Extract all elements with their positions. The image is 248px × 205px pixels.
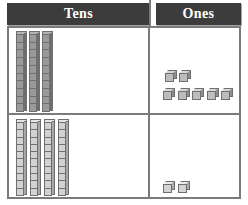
column-header-tens-label: Tens	[64, 6, 93, 22]
tens-rod	[29, 31, 40, 113]
ones-cube-front-face	[163, 91, 172, 100]
tens-rod-unit-segment	[45, 145, 51, 152]
column-header-ones-label: Ones	[183, 6, 215, 22]
tens-rod-unit-segment	[30, 89, 36, 97]
tens-rod-unit-segment	[59, 138, 65, 145]
ones-cube-front-face	[192, 91, 201, 100]
tens-rod-unit-segment	[17, 138, 23, 145]
tens-rod-unit-segment	[43, 74, 49, 82]
tens-rod-side-face	[37, 33, 40, 111]
tens-rod-unit-segment	[17, 97, 23, 105]
column-header-tens: Tens	[7, 3, 150, 25]
tens-rod-unit-segment	[45, 189, 51, 195]
tens-rod-side-face	[66, 121, 69, 195]
ones-unit-cube	[165, 70, 177, 82]
tens-rod-front-face	[29, 34, 37, 112]
ones-unit-cube	[178, 88, 190, 100]
tens-rod-front-face	[42, 34, 50, 112]
ones-cube-front-face	[165, 73, 174, 82]
tens-rod-side-face	[50, 33, 53, 111]
ones-unit-cube	[163, 88, 175, 100]
cell-row2-ones	[151, 115, 239, 199]
tens-rod-unit-segment	[45, 138, 51, 145]
tens-rod-unit-segment	[45, 130, 51, 137]
tens-rod-unit-segment	[59, 152, 65, 159]
ones-cube-front-face	[178, 91, 187, 100]
tens-rod-unit-segment	[30, 66, 36, 74]
tens-rod-unit-segment	[31, 181, 37, 188]
tens-rod-side-face	[52, 121, 55, 195]
tens-rod-unit-segment	[17, 130, 23, 137]
tens-rod-unit-segment	[59, 130, 65, 137]
ones-unit-cube	[163, 181, 175, 193]
ones-cube-front-face	[163, 184, 172, 193]
tens-rod-unit-segment	[17, 174, 23, 181]
ones-unit-cube	[179, 70, 191, 82]
tens-rod-unit-segment	[45, 174, 51, 181]
tens-rod-side-face	[38, 121, 41, 195]
tens-rod-unit-segment	[31, 145, 37, 152]
tens-rod-unit-segment	[30, 97, 36, 105]
tens-rod-unit-segment	[30, 74, 36, 82]
tens-rod-unit-segment	[43, 89, 49, 97]
tens-rod-unit-segment	[45, 159, 51, 166]
tens-rod-unit-segment	[17, 152, 23, 159]
tens-rod-unit-segment	[17, 35, 23, 43]
ones-unit-cube	[178, 181, 190, 193]
tens-rod-front-face	[30, 122, 38, 196]
tens-rod	[16, 119, 27, 197]
tens-rod-unit-segment	[59, 123, 65, 130]
tens-rod-unit-segment	[59, 181, 65, 188]
tens-rod-unit-segment	[30, 35, 36, 43]
tens-rod-unit-segment	[17, 89, 23, 97]
ones-cube-front-face	[178, 184, 187, 193]
tens-rod-unit-segment	[43, 104, 49, 111]
tens-rod-unit-segment	[59, 167, 65, 174]
tens-rod-unit-segment	[17, 58, 23, 66]
cell-row1-tens	[9, 28, 148, 113]
tens-rod-unit-segment	[45, 167, 51, 174]
ones-cube-front-face	[221, 91, 230, 100]
tens-rod-front-face	[44, 122, 52, 196]
tens-rod-unit-segment	[43, 35, 49, 43]
ones-unit-cube	[192, 88, 204, 100]
ones-cube-front-face	[207, 91, 216, 100]
tens-rod-unit-segment	[43, 58, 49, 66]
tens-rod	[42, 31, 53, 113]
ones-unit-cube	[221, 88, 233, 100]
tens-rod-unit-segment	[31, 189, 37, 195]
tens-rod-unit-segment	[45, 181, 51, 188]
tens-rod	[30, 119, 41, 197]
tens-rod-unit-segment	[43, 50, 49, 58]
tens-rod-unit-segment	[17, 66, 23, 74]
tens-rod-unit-segment	[31, 174, 37, 181]
tens-rod-front-face	[58, 122, 66, 196]
tens-rod-unit-segment	[45, 152, 51, 159]
ones-cube-front-face	[179, 73, 188, 82]
tens-rod-front-face	[16, 122, 24, 196]
tens-rod-unit-segment	[30, 50, 36, 58]
tens-rod-unit-segment	[30, 43, 36, 51]
tens-rod-unit-segment	[17, 50, 23, 58]
tens-rod-unit-segment	[31, 159, 37, 166]
tens-rod-unit-segment	[43, 81, 49, 89]
tens-rod-unit-segment	[17, 181, 23, 188]
tens-rod	[16, 31, 27, 113]
tens-rod-unit-segment	[43, 43, 49, 51]
header-divider	[149, 0, 151, 26]
tens-rod-side-face	[24, 33, 27, 111]
tens-rod-unit-segment	[59, 174, 65, 181]
tens-rod-unit-segment	[31, 167, 37, 174]
tens-rod-unit-segment	[30, 58, 36, 66]
tens-rod-unit-segment	[59, 159, 65, 166]
tens-rod-unit-segment	[59, 145, 65, 152]
place-value-chart: Tens Ones	[0, 0, 248, 205]
column-header-ones: Ones	[156, 3, 241, 25]
tens-rod-unit-segment	[17, 104, 23, 111]
tens-rod-unit-segment	[43, 66, 49, 74]
tens-rod-front-face	[16, 34, 24, 112]
tens-rod-unit-segment	[31, 152, 37, 159]
tens-rod-unit-segment	[30, 104, 36, 111]
tens-rod-unit-segment	[17, 159, 23, 166]
tens-rod-unit-segment	[17, 189, 23, 195]
